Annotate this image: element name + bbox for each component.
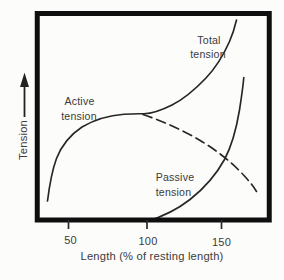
up-arrow-icon (20, 73, 29, 88)
active-tension-label-line2: tension (61, 110, 97, 122)
x-tick-label-100: 100 (139, 235, 158, 247)
passive-tension-label-line1: Passive (156, 171, 195, 183)
length-tension-figure: 50 100 150 Length (% of resting length) … (0, 0, 284, 280)
length-tension-chart: 50 100 150 Length (% of resting length) … (0, 0, 284, 280)
passive-tension-curve (146, 78, 244, 222)
active-tension-curve (48, 114, 145, 201)
active-tension-label-line1: Active (64, 95, 94, 107)
total-tension-label-line1: Total (197, 34, 220, 46)
x-tick-label-150: 150 (212, 236, 231, 248)
y-axis-label: Tension (17, 120, 29, 160)
total-tension-label-line2: tension (190, 48, 226, 60)
x-tick-label-50: 50 (64, 234, 77, 246)
total-tension-curve (144, 20, 237, 114)
passive-tension-label-line2: tension (156, 186, 192, 198)
x-axis-label: Length (% of resting length) (80, 250, 223, 262)
